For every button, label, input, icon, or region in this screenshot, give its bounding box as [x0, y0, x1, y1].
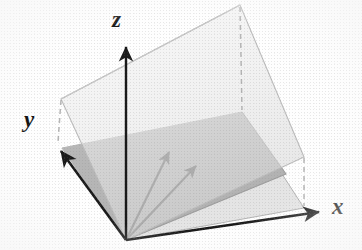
dashed-guide-line-icon-left [58, 100, 61, 142]
z-axis-label: z [112, 8, 121, 31]
diagram-canvas [0, 0, 362, 250]
three-d-plane-diagram: z y x [0, 0, 362, 250]
x-axis-label: x [332, 195, 344, 218]
y-axis-label: y [24, 108, 34, 131]
